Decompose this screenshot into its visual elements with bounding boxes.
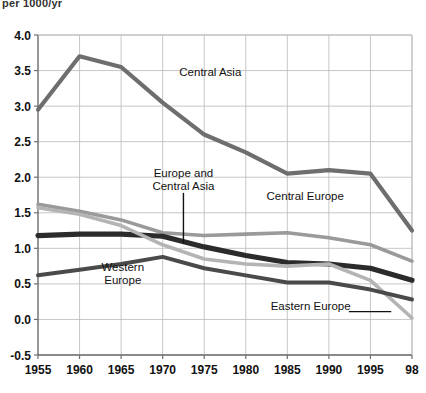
x-axis-ticks: 19551960196519701975198019851990199598 [25, 355, 419, 377]
y-tick-label: 2.0 [14, 171, 31, 185]
line-chart-svg: 4.03.53.02.52.01.51.00.50.0-0.5 19551960… [0, 0, 426, 393]
x-tick-label: 1965 [108, 363, 135, 377]
x-tick-label: 1955 [25, 363, 52, 377]
x-tick-label: 1980 [232, 363, 259, 377]
y-axis-ticks: 4.03.53.02.52.01.51.00.50.0-0.5 [10, 29, 38, 363]
data-series-group [38, 56, 412, 318]
grid-lines [38, 35, 412, 355]
series-line-eastern-europe [38, 208, 412, 318]
x-tick-label: 1985 [274, 363, 301, 377]
y-tick-label: -0.5 [10, 349, 31, 363]
annotation-label-europe-and-central-asia: Europe and [154, 167, 213, 179]
x-tick-label: 1975 [191, 363, 218, 377]
chart-container: per 1000/yr 4.03.53.02.52.01.51.00.50.0-… [0, 0, 426, 393]
x-tick-label: 1990 [316, 363, 343, 377]
plot-frame [38, 35, 412, 355]
y-tick-label: 4.0 [14, 29, 31, 43]
annotation-label-central-asia: Central Asia [179, 66, 242, 78]
annotation-label-eastern-europe: Eastern Europe [271, 300, 351, 312]
annotation-label-central-europe: Central Europe [267, 190, 344, 202]
y-tick-label: 0.0 [14, 313, 31, 327]
x-tick-label: 98 [405, 363, 419, 377]
y-tick-label: 3.5 [14, 64, 31, 78]
y-tick-label: 1.0 [14, 242, 31, 256]
annotation-label-western-europe: Europe [104, 274, 141, 286]
y-tick-label: 1.5 [14, 206, 31, 220]
x-tick-label: 1970 [149, 363, 176, 377]
x-tick-label: 1960 [66, 363, 93, 377]
y-tick-label: 0.5 [14, 277, 31, 291]
x-tick-label: 1995 [357, 363, 384, 377]
series-line-central-asia [38, 56, 412, 230]
y-tick-label: 2.5 [14, 135, 31, 149]
annotation-label-western-europe: Western [101, 261, 144, 273]
y-tick-label: 3.0 [14, 100, 31, 114]
annotation-label-europe-and-central-asia: Central Asia [152, 180, 215, 192]
